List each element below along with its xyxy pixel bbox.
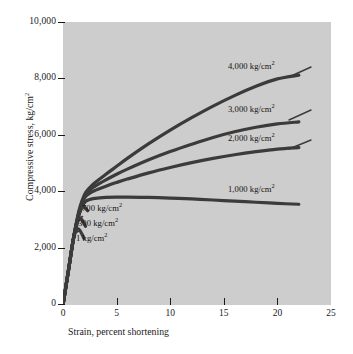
series-annotation-2: 2,000 kg/cm2 <box>228 134 275 143</box>
x-tick-20 <box>277 298 278 305</box>
y-tick-label-4000: 4,000 <box>34 186 56 196</box>
series-annotation-text: 2,000 kg/cm <box>228 133 272 143</box>
series-annotation-text: 1 kg/cm <box>76 233 104 243</box>
series-annotation-superscript: 2 <box>119 201 122 208</box>
x-tick-15 <box>224 298 225 305</box>
x-tick-label-10: 10 <box>155 309 185 319</box>
y-axis-title: Compressive stress, kg/cm2 <box>25 62 35 232</box>
y-tick-label-10000: 10,000 <box>29 17 56 27</box>
series-annotation-1: 3,000 kg/cm2 <box>228 105 275 114</box>
series-annotation-superscript: 2 <box>115 216 118 223</box>
x-tick-label-15: 15 <box>209 309 239 319</box>
series-annotation-text: 3,000 kg/cm <box>228 104 272 114</box>
x-tick-5 <box>117 298 118 305</box>
x-tick-label-25: 25 <box>316 309 346 319</box>
series-annotation-superscript: 2 <box>272 131 275 138</box>
y-tick-4000 <box>58 191 65 192</box>
x-tick-label-0: 0 <box>48 309 78 319</box>
leader-line-1 <box>289 110 311 120</box>
y-tick-label-0: 0 <box>51 299 56 309</box>
series-annotation-superscript: 2 <box>104 231 107 238</box>
y-tick-0 <box>58 304 65 305</box>
y-tick-8000 <box>58 78 65 79</box>
x-tick-label-5: 5 <box>102 309 132 319</box>
series-annotation-4: 700 kg/cm2 <box>82 204 122 213</box>
series-annotation-text: 1,000 kg/cm <box>228 184 272 194</box>
series-annotation-6: 1 kg/cm2 <box>76 234 108 243</box>
series-annotation-text: 300 kg/cm <box>78 218 115 228</box>
series-annotation-text: 4,000 kg/cm <box>228 61 272 71</box>
series-annotation-superscript: 2 <box>272 59 275 66</box>
series-annotation-superscript: 2 <box>272 182 275 189</box>
x-tick-label-20: 20 <box>262 309 292 319</box>
stress-strain-chart: 10,000 8,000 6,000 4,000 2,000 0 0 5 10 … <box>0 0 353 354</box>
curves-svg <box>63 22 331 305</box>
series-annotation-text: 700 kg/cm <box>82 203 119 213</box>
y-axis-title-superscript: 2 <box>23 93 30 96</box>
y-tick-6000 <box>58 135 65 136</box>
series-annotation-0: 4,000 kg/cm2 <box>228 62 275 71</box>
y-tick-2000 <box>58 248 65 249</box>
series-annotation-3: 1,000 kg/cm2 <box>228 185 275 194</box>
x-tick-10 <box>170 298 171 305</box>
y-axis-title-text: Compressive stress, kg/cm <box>24 96 35 201</box>
y-tick-10000 <box>58 22 65 23</box>
x-axis-title: Strain, percent shortening <box>68 327 169 337</box>
curve-1000 <box>63 197 299 305</box>
series-annotation-5: 300 kg/cm2 <box>78 219 118 228</box>
y-tick-label-8000: 8,000 <box>34 73 56 83</box>
y-tick-label-2000: 2,000 <box>34 243 56 253</box>
y-tick-label-6000: 6,000 <box>34 130 56 140</box>
plot-area <box>63 22 331 305</box>
series-annotation-superscript: 2 <box>272 102 275 109</box>
